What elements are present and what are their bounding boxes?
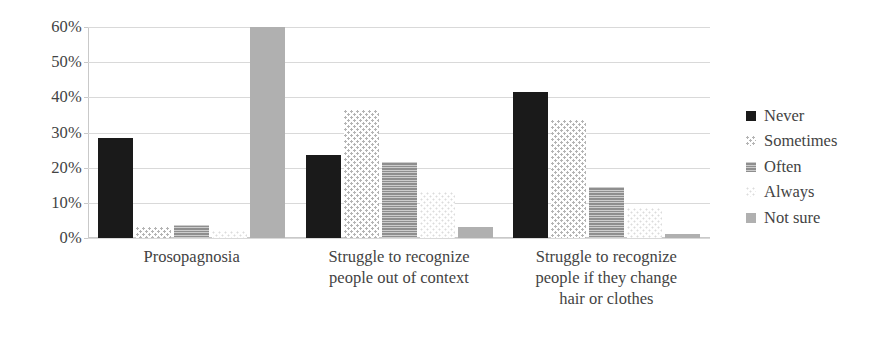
y-axis-tick-label: 20% xyxy=(51,160,82,177)
grid-line xyxy=(88,133,710,134)
bar-sometimes xyxy=(136,227,171,238)
y-axis-tick-label: 30% xyxy=(51,125,82,142)
bar-often xyxy=(382,162,417,238)
x-axis-category-label-line: Prosopagnosia xyxy=(88,246,295,267)
x-axis-category-label: Prosopagnosia xyxy=(88,246,295,267)
legend-item-not-sure[interactable]: Not sure xyxy=(746,205,886,231)
x-axis-category-label-line: hair or clothes xyxy=(503,288,710,309)
y-axis-tick xyxy=(84,27,88,28)
bar-sometimes xyxy=(344,110,379,238)
bar-always xyxy=(420,192,455,238)
legend-swatch-icon xyxy=(746,213,756,223)
y-axis-tick-label: 40% xyxy=(51,89,82,106)
legend-item-sometimes[interactable]: Sometimes xyxy=(746,129,886,155)
plot-area xyxy=(88,27,710,238)
y-axis-tick xyxy=(84,97,88,98)
grid-line xyxy=(88,62,710,63)
legend-swatch-icon xyxy=(746,136,756,146)
legend-item-never[interactable]: Never xyxy=(746,103,886,129)
x-axis-category-label: Struggle to recognizepeople out of conte… xyxy=(295,246,502,288)
legend-swatch-icon xyxy=(746,111,756,121)
legend-item-label: Always xyxy=(764,184,814,201)
legend-item-label: Not sure xyxy=(764,210,820,227)
y-axis-tick xyxy=(84,62,88,63)
legend-swatch-icon xyxy=(746,187,756,197)
x-axis-category-label-line: Struggle to recognize xyxy=(503,246,710,267)
chart-legend: NeverSometimesOftenAlwaysNot sure xyxy=(746,103,886,231)
bar-never xyxy=(306,155,341,238)
x-axis-category-labels: ProsopagnosiaStruggle to recognizepeople… xyxy=(88,246,710,341)
legend-item-label: Never xyxy=(764,108,804,125)
legend-item-always[interactable]: Always xyxy=(746,180,886,206)
bar-never xyxy=(98,138,133,238)
bar-never xyxy=(513,92,548,238)
grid-line xyxy=(88,238,710,239)
y-axis-tick xyxy=(84,133,88,134)
legend-item-label: Often xyxy=(764,159,802,176)
legend-item-often[interactable]: Often xyxy=(746,154,886,180)
x-axis-category-label-line: people out of context xyxy=(295,267,502,288)
bar-not-sure xyxy=(665,234,700,238)
y-axis-tick-label: 10% xyxy=(51,195,82,212)
bar-sometimes xyxy=(551,120,586,238)
y-axis-tick-label: 50% xyxy=(51,54,82,71)
bar-often xyxy=(589,187,624,238)
bar-always xyxy=(627,208,662,238)
grid-line xyxy=(88,97,710,98)
bar-not-sure xyxy=(250,27,285,238)
x-axis-category-label: Struggle to recognizepeople if they chan… xyxy=(503,246,710,309)
y-axis-labels: 0%10%20%30%40%50%60% xyxy=(18,0,82,345)
bar-often xyxy=(174,225,209,238)
grid-line xyxy=(88,27,710,28)
y-axis-tick xyxy=(84,168,88,169)
y-axis-tick xyxy=(84,203,88,204)
y-axis-tick-label: 0% xyxy=(60,230,82,247)
y-axis-tick xyxy=(84,238,88,239)
bar-always xyxy=(212,231,247,238)
x-axis-category-label-line: Struggle to recognize xyxy=(295,246,502,267)
y-axis-tick-label: 60% xyxy=(51,19,82,36)
bar-not-sure xyxy=(458,227,493,238)
legend-item-label: Sometimes xyxy=(764,133,837,150)
legend-swatch-icon xyxy=(746,162,756,172)
bar-chart: 0%10%20%30%40%50%60% ProsopagnosiaStrugg… xyxy=(0,0,896,345)
x-axis-category-label-line: people if they change xyxy=(503,267,710,288)
